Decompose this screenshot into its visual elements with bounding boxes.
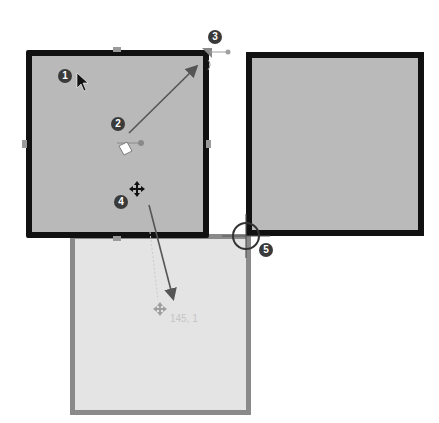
selection-handle-bottom[interactable]: [113, 236, 121, 241]
selection-handle-left[interactable]: [22, 140, 27, 148]
selection-handle-right[interactable]: [206, 140, 211, 148]
selected-square[interactable]: [26, 50, 209, 238]
drag-coordinate-label: 145, 1: [170, 313, 198, 324]
ghost-square-preview: [70, 234, 251, 415]
selection-handle-top[interactable]: [113, 47, 121, 52]
callout-badge-5: 5: [259, 243, 273, 257]
callout-badge-4: 4: [114, 195, 128, 209]
callout-badge-1: 1: [58, 69, 72, 83]
diagram-canvas: 145, 1 1 2 3 4 5: [0, 0, 439, 423]
callout-badge-3: 3: [208, 30, 222, 44]
target-square[interactable]: [246, 52, 424, 236]
callout-badge-2: 2: [111, 117, 125, 131]
